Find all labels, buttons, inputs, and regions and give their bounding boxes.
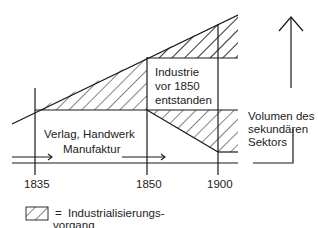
label-entstanden: entstanden: [155, 94, 212, 107]
year-label-1835: 1835: [24, 178, 50, 191]
label-manufaktur: Manufaktur: [63, 143, 121, 156]
year-label-1850: 1850: [136, 178, 162, 191]
time-arrow-2: [122, 154, 165, 160]
label-industrie: Industrie: [155, 66, 199, 79]
hatched-area-lower: [147, 110, 238, 152]
year-label-1900: 1900: [207, 178, 233, 191]
axis-label-line2: sekundären: [248, 123, 308, 136]
time-arrow-1: [12, 154, 52, 160]
label-vor-1850: vor 1850: [155, 80, 200, 93]
legend-text-line2: vorgang: [53, 219, 95, 228]
axis-label-line1: Volumen des: [248, 110, 315, 123]
legend-hatch-symbol: [26, 207, 48, 220]
axis-label-line3: Sektors: [248, 136, 287, 149]
label-verlag-handwerk: Verlag, Handwerk: [44, 128, 135, 141]
volume-axis-arrow: [279, 17, 303, 88]
